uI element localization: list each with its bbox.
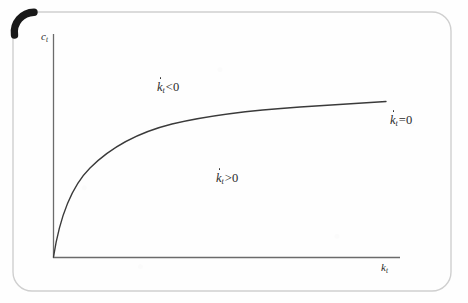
y-axis-label: ct [41, 31, 48, 44]
annotation-k-dot-zero: kt=0 [390, 114, 412, 128]
phase-diagram-svg [0, 0, 468, 303]
figure-border [13, 12, 451, 291]
annotation-k-dot-zero-value: 0 [406, 113, 412, 127]
y-axis-label-var: c [41, 31, 46, 42]
annotation-k-dot-positive: kt>0 [216, 172, 238, 186]
annotation-k-dot-zero-relation: = [398, 113, 406, 127]
x-axis-label-sub: t [386, 267, 388, 275]
x-axis-label: kt [381, 262, 388, 275]
figure-page: ct kt kt<0 kt>0 kt=0 [0, 0, 468, 303]
annotation-k-dot-zero-var: k [390, 114, 396, 127]
y-axis-label-sub: t [46, 36, 48, 44]
annotation-k-dot-negative-var: k [157, 81, 163, 94]
annotation-k-dot-positive-var: k [216, 172, 222, 185]
annotation-k-dot-positive-value: 0 [232, 171, 238, 185]
x-axis-label-var: k [381, 262, 386, 273]
annotation-k-dot-negative-relation: < [165, 80, 173, 94]
annotation-k-dot-negative: kt<0 [157, 81, 179, 95]
corner-ink-mark [14, 12, 34, 35]
annotation-k-dot-positive-relation: > [224, 171, 232, 185]
annotation-k-dot-negative-value: 0 [173, 80, 179, 94]
